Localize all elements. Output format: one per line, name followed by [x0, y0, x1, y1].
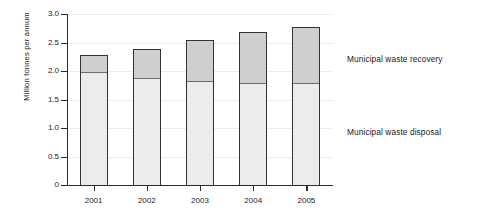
y-axis-tick-label: 2.0 [48, 67, 59, 75]
x-axis-tick [253, 185, 254, 191]
bar-segment-recovery [240, 33, 266, 83]
bar-segment-disposal [293, 83, 319, 185]
y-axis-tick-label: 0.5 [48, 153, 59, 161]
y-axis-tick-label: 2.5 [48, 39, 59, 47]
legend-label-disposal: Municipal waste disposal [347, 127, 441, 137]
y-axis-tick [61, 43, 67, 44]
x-axis-label-2003: 2003 [178, 196, 222, 205]
y-axis-tick [61, 14, 67, 15]
gridline [68, 14, 333, 15]
bar-segment-recovery [81, 56, 107, 72]
y-axis-tick-label: 0 [55, 181, 59, 189]
x-axis-tick [306, 185, 307, 191]
x-axis-tick [200, 185, 201, 191]
chart-container: Million tonnes per annum 00.51.01.52.02.… [0, 0, 482, 217]
y-axis-tick-label: 1.0 [48, 124, 59, 132]
x-axis-tick [147, 185, 148, 191]
bar-2003 [186, 40, 214, 185]
y-axis-tick [61, 157, 67, 158]
x-axis-label-2002: 2002 [125, 196, 169, 205]
bar-2004 [239, 32, 267, 185]
bar-2002 [133, 49, 161, 185]
bar-2001 [80, 55, 108, 185]
y-axis-tick [61, 185, 67, 186]
legend-label-recovery: Municipal waste recovery [347, 54, 443, 64]
x-axis-label-2004: 2004 [231, 196, 275, 205]
x-axis-label-2001: 2001 [72, 196, 116, 205]
bar-segment-recovery [134, 50, 160, 78]
x-axis-label-2005: 2005 [284, 196, 328, 205]
bar-segment-recovery [187, 41, 213, 81]
plot-area: 00.51.01.52.02.53.0 20012002200320042005 [67, 14, 333, 185]
bar-segment-disposal [134, 78, 160, 185]
y-axis-title: Million tonnes per annum [22, 0, 31, 127]
bar-segment-disposal [187, 81, 213, 185]
bar-segment-disposal [81, 72, 107, 185]
bar-segment-disposal [240, 83, 266, 185]
x-axis-tick [94, 185, 95, 191]
y-axis-tick-label: 3.0 [48, 10, 59, 18]
bar-segment-recovery [293, 28, 319, 83]
bar-2005 [292, 27, 320, 185]
y-axis-tick [61, 71, 67, 72]
y-axis-tick [61, 100, 67, 101]
y-axis-tick [61, 128, 67, 129]
y-axis-tick-label: 1.5 [48, 96, 59, 104]
